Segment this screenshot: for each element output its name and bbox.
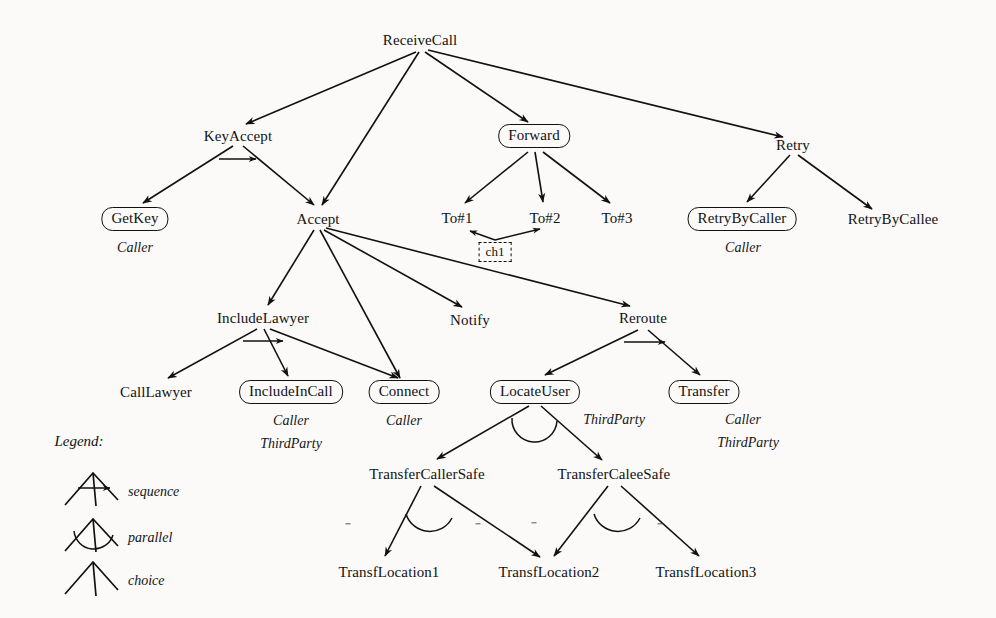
node-notify[interactable]: Notify [450,313,490,328]
role-label-includeincall: Caller [273,414,309,428]
node-includeincall[interactable]: IncludeInCall [239,380,343,404]
role-label-transfer: ThirdParty [717,436,779,450]
legend-symbol-sequence [65,473,118,506]
edge-group-locateuser [437,406,602,460]
edge-group-transfercallersafe [385,486,540,557]
node-to-1[interactable]: To#1 [441,211,472,226]
node-to-2[interactable]: To#2 [529,211,560,226]
node-connect[interactable]: Connect [369,380,440,404]
channel-ch1-label: ch1 [486,244,505,259]
role-label-locateuser: ThirdParty [583,413,645,427]
diagram-edges-layer [0,0,996,618]
node-includelawyer[interactable]: IncludeLawyer [217,311,309,326]
role-label-getkey: Caller [117,241,153,255]
edge-group-channel-ch1 [470,229,540,240]
edge-group-includelawyer [168,329,398,378]
scan-tick [532,522,537,523]
node-transflocation3[interactable]: TransfLocation3 [656,565,757,580]
role-label-retrybycaller: Caller [725,241,761,255]
edge-group-retry [747,155,872,209]
node-transflocation2[interactable]: TransfLocation2 [499,565,600,580]
role-label-transfer: Caller [725,413,761,427]
scan-tick [658,523,663,524]
edge-group-keyaccept [143,146,314,205]
node-transfer[interactable]: Transfer [668,380,739,404]
edge-group-transfercaleesafe [554,486,699,556]
node-locateuser[interactable]: LocateUser [490,380,580,404]
edge-group-forward [465,152,610,203]
node-forward[interactable]: Forward [498,124,570,148]
node-retrybycaller[interactable]: RetryByCaller [688,207,797,231]
scan-tick [476,523,481,524]
legend-label-sequence: sequence [128,484,179,500]
node-transfercallersafe[interactable]: TransferCallerSafe [369,467,484,482]
node-retrybycallee[interactable]: RetryByCallee [848,212,938,227]
legend-symbol-choice [65,562,118,596]
legend-label-parallel: parallel [128,530,172,546]
scan-tick [346,523,351,524]
node-retry[interactable]: Retry [776,138,810,153]
edge-group-accept [268,228,630,378]
node-keyaccept[interactable]: KeyAccept [204,129,272,144]
role-label-connect: Caller [386,414,422,428]
node-reroute[interactable]: Reroute [619,311,667,326]
node-calllawyer[interactable]: CallLawyer [120,385,192,400]
node-getkey[interactable]: GetKey [101,207,168,231]
channel-ch1[interactable]: ch1 [479,242,512,262]
node-receivecall[interactable]: ReceiveCall [383,33,457,48]
node-to-3[interactable]: To#3 [601,211,632,226]
node-transfercaleesafe[interactable]: TransferCaleeSafe [558,467,671,482]
legend-label-choice: choice [128,573,165,589]
edge-group-reroute [545,330,700,375]
legend-symbol-parallel [65,519,118,552]
diagram-canvas: ReceiveCallKeyAcceptForwardRetryGetKeyAc… [0,0,996,618]
legend-title: Legend: [54,433,103,450]
role-label-includeincall: ThirdParty [260,437,322,451]
node-transflocation1[interactable]: TransfLocation1 [339,565,440,580]
node-accept[interactable]: Accept [296,212,339,227]
